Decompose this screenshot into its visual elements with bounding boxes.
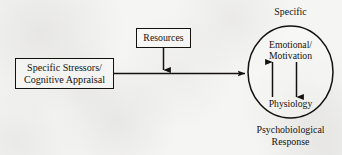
stressors-line-1: Specific Stressors/	[27, 62, 102, 74]
diagram-canvas: Specific Stressors/ Cognitive Appraisal …	[0, 0, 342, 155]
resources-box: Resources	[136, 28, 191, 48]
physiology-label-text: Physiology	[253, 98, 328, 109]
specific-label-text: Specific	[248, 6, 333, 18]
response-line-2: Response	[238, 136, 342, 148]
specific-label: Specific	[248, 6, 333, 18]
resources-label: Resources	[143, 32, 183, 43]
emotional-motivation-label: Emotional/ Motivation	[253, 39, 328, 62]
response-line-1: Psychobiological	[238, 124, 342, 136]
emotional-line-2: Motivation	[253, 50, 328, 61]
physiology-label: Physiology	[253, 98, 328, 109]
stressors-line-2: Cognitive Appraisal	[24, 74, 105, 86]
emotional-line-1: Emotional/	[253, 39, 328, 50]
psychobiological-response-label: Psychobiological Response	[238, 124, 342, 147]
specific-stressors-box: Specific Stressors/ Cognitive Appraisal	[15, 58, 114, 89]
